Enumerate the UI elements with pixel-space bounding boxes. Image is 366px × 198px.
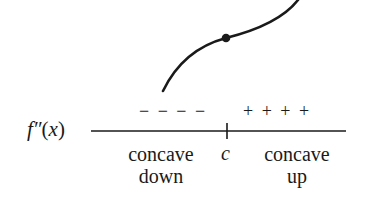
open-paren: ( [42,117,49,141]
positive-signs: + + + + [243,102,311,120]
concave-down-label: concave down [113,143,209,187]
inflection-point-dot [222,34,231,43]
concave-up-label: concave up [249,143,345,187]
concave-down-line2: down [113,165,209,187]
double-prime-symbol: ″ [33,117,42,141]
function-curve [163,0,298,91]
close-paren: ) [58,117,65,141]
negative-signs: − − − − [139,102,207,120]
concave-up-line2: up [249,165,345,187]
concave-up-line1: concave [249,143,345,165]
variable-x: x [49,117,58,141]
second-derivative-label: f″(x) [27,119,65,140]
concave-down-line1: concave [113,143,209,165]
critical-point-label: c [221,143,230,163]
concavity-diagram: f″(x) − − − − + + + + concave down c con… [0,0,366,198]
